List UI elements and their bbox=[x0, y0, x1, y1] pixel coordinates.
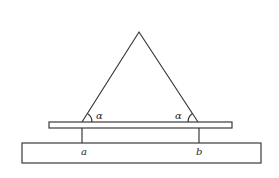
base-block bbox=[22, 143, 261, 163]
angle-label-left: α bbox=[96, 110, 103, 121]
triangle-rods bbox=[82, 32, 198, 122]
angle-arc-right bbox=[188, 114, 193, 122]
angle-label-right: α bbox=[175, 110, 182, 121]
plank bbox=[49, 122, 232, 128]
support-label-b: b bbox=[196, 146, 202, 157]
triangle-on-beam-diagram: α α a b bbox=[0, 0, 279, 178]
angle-arc-left bbox=[87, 114, 92, 122]
support-label-a: a bbox=[81, 146, 87, 157]
